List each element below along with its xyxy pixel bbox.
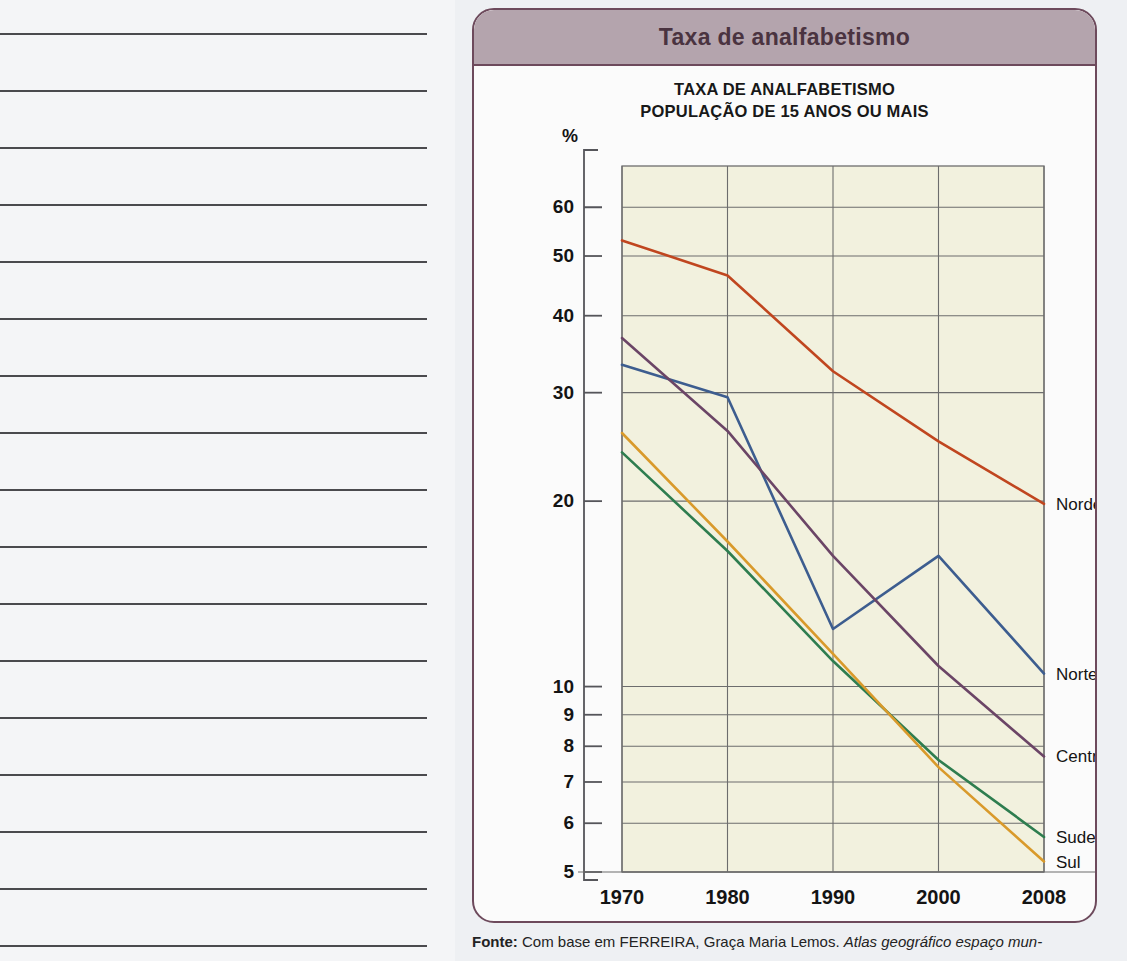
chart-title-line-1: TAXA DE ANALFABETISMO (474, 78, 1095, 100)
y-axis-tick-label: 30 (553, 382, 574, 403)
series-label-sul: Sul (1056, 853, 1081, 872)
y-axis-tick-label: 8 (563, 735, 574, 756)
y-axis-tick-label: 60 (553, 196, 574, 217)
series-label-nordeste: Nordeste (1056, 495, 1097, 514)
chart-card: Taxa de analfabetismo TAXA DE ANALFABETI… (472, 8, 1097, 923)
notebook-page (0, 0, 455, 961)
y-axis-tick-label: 20 (553, 490, 574, 511)
notebook-rule-line (0, 147, 427, 149)
source-title: Atlas geográfico espaço mun- (844, 933, 1042, 950)
notebook-rule-line (0, 375, 427, 377)
notebook-rule-line (0, 33, 427, 35)
y-axis-spine (584, 150, 598, 880)
y-axis-tick-label: 5 (563, 861, 574, 882)
notebook-rule-line (0, 660, 427, 662)
notebook-rule-line (0, 432, 427, 434)
y-axis-tick-label: 7 (563, 771, 574, 792)
x-axis-tick-label: 2008 (1022, 886, 1067, 908)
notebook-rule-line (0, 774, 427, 776)
series-label-norte: Norte (1056, 665, 1097, 684)
notebook-rule-line (0, 261, 427, 263)
notebook-rule-line (0, 318, 427, 320)
x-axis-tick-label: 2000 (916, 886, 961, 908)
x-axis-tick-label: 1970 (600, 886, 645, 908)
notebook-rule-line (0, 546, 427, 548)
chart-title: TAXA DE ANALFABETISMO POPULAÇÃO DE 15 AN… (474, 78, 1095, 123)
series-label-centro-oeste: Centro-Oeste (1056, 747, 1097, 766)
notebook-rule-line (0, 945, 427, 947)
y-axis-tick-label: 9 (563, 704, 574, 725)
y-axis-tick-label: 50 (553, 245, 574, 266)
series-label-sudeste: Sudeste (1056, 828, 1097, 847)
source-label: Fonte: (472, 933, 518, 950)
notebook-rule-line (0, 489, 427, 491)
y-axis-tick-label: 10 (553, 676, 574, 697)
source-note: Fonte: Com base em FERREIRA, Graça Maria… (472, 932, 1127, 952)
x-axis-tick-label: 1990 (811, 886, 856, 908)
y-axis-unit-label: % (562, 126, 578, 146)
line-chart: 60504030201098765%19701980199020002008No… (474, 120, 1097, 920)
y-axis-tick-label: 6 (563, 812, 574, 833)
notebook-rule-line (0, 717, 427, 719)
notebook-rule-line (0, 603, 427, 605)
notebook-rule-line (0, 831, 427, 833)
notebook-rule-line (0, 90, 427, 92)
card-header-title: Taxa de analfabetismo (659, 24, 910, 51)
y-axis-tick-label: 40 (553, 305, 574, 326)
notebook-rule-line (0, 204, 427, 206)
notebook-rule-line (0, 888, 427, 890)
source-text: Com base em FERREIRA, Graça Maria Lemos. (518, 933, 844, 950)
chart-panel: Taxa de analfabetismo TAXA DE ANALFABETI… (455, 0, 1127, 961)
card-header: Taxa de analfabetismo (474, 10, 1095, 66)
x-axis-tick-label: 1980 (705, 886, 750, 908)
